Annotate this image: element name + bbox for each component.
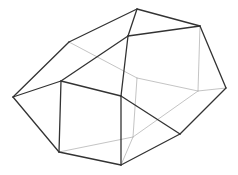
edge-A-B <box>137 9 200 26</box>
edge-J-N <box>133 78 137 137</box>
edge-K-M <box>121 134 180 165</box>
edge-L-M <box>59 152 121 165</box>
edge-N-M <box>121 137 133 165</box>
polyhedron-wireframe <box>0 0 238 175</box>
edge-I-N <box>133 91 198 137</box>
visible-edges <box>13 9 226 165</box>
edge-B-I <box>198 26 200 91</box>
edge-F-L <box>59 81 61 152</box>
edge-E-L <box>13 97 59 152</box>
edge-B-H <box>200 26 226 88</box>
edge-L-N <box>59 137 133 152</box>
edge-G-K <box>121 96 180 134</box>
hidden-edges <box>59 26 226 165</box>
edge-K-H <box>180 88 226 134</box>
edge-I-H <box>198 88 226 91</box>
edge-J-I <box>137 78 198 91</box>
edge-C-B <box>128 26 200 36</box>
edge-F-G <box>61 81 121 96</box>
edge-C-G <box>121 36 128 96</box>
edge-E-F <box>13 81 61 97</box>
